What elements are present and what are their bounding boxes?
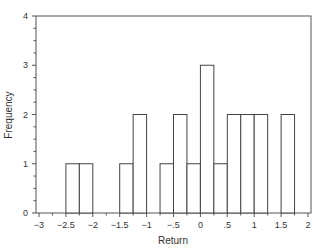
x-tick-label: −3: [34, 220, 44, 230]
x-axis-title: Return: [158, 235, 188, 246]
histogram-bar: [66, 164, 79, 213]
x-tick-label: −1.5: [111, 220, 129, 230]
x-tick-label: −.5: [167, 220, 180, 230]
histogram-bar: [187, 164, 200, 213]
x-tick-label: 1.5: [275, 220, 288, 230]
histogram-bar: [160, 164, 173, 213]
x-tick-label: −2: [88, 220, 98, 230]
histogram-bar: [281, 115, 294, 214]
histogram-bar: [200, 65, 213, 213]
x-axis: −3−2.5−2−1.5−1−.50.511.52: [34, 213, 311, 230]
y-tick-label: 4: [23, 11, 28, 21]
x-tick-label: 0: [198, 220, 203, 230]
x-tick-label: .5: [224, 220, 232, 230]
y-tick-label: 1: [23, 159, 28, 169]
histogram-bar: [227, 115, 240, 214]
y-tick-label: 0: [23, 208, 28, 218]
histogram-bar: [214, 164, 227, 213]
x-tick-label: −2.5: [57, 220, 75, 230]
histogram-chart: −3−2.5−2−1.5−1−.50.511.52 01234 Return F…: [0, 0, 322, 251]
y-axis: 01234: [23, 11, 36, 218]
histogram-bar: [174, 115, 187, 214]
histogram-bar: [133, 115, 146, 214]
y-tick-label: 2: [23, 110, 28, 120]
x-tick-label: −1: [141, 220, 151, 230]
x-tick-label: 2: [305, 220, 310, 230]
x-tick-label: 1: [252, 220, 257, 230]
histogram-bars: [66, 65, 295, 213]
histogram-bar: [254, 115, 267, 214]
histogram-bar: [241, 115, 254, 214]
histogram-bar: [79, 164, 92, 213]
y-axis-title: Frequency: [3, 91, 14, 138]
histogram-bar: [120, 164, 133, 213]
y-tick-label: 3: [23, 60, 28, 70]
